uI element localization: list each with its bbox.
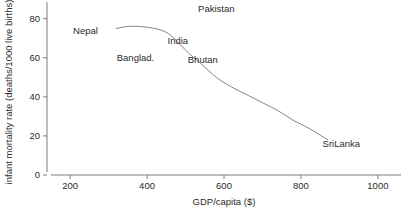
point-labels: NepalBanglad.PakistanIndiaBhutanSriLanka [73,3,361,149]
y-tick-label: 20 [29,130,40,141]
y-axis-title: infant mortality rate (deaths/1000 live … [3,0,14,184]
point-label-bhutan: Bhutan [188,54,218,65]
y-tick-label: 0 [35,169,40,180]
x-tick-label: 400 [139,180,155,191]
x-tick-label: 600 [216,180,232,191]
x-axis-title: GDP/capita ($) [193,196,256,207]
axis-titles: GDP/capita ($)infant mortality rate (dea… [3,0,255,207]
x-tick-label: 200 [62,180,78,191]
chart-figure: 0204060802004006008001000 NepalBanglad.P… [0,0,409,213]
point-label-india: India [168,35,189,46]
point-label-srilanka: SriLanka [323,138,361,149]
point-label-banglad: Banglad. [117,52,155,63]
y-tick-label: 60 [29,52,40,63]
point-label-nepal: Nepal [73,25,98,36]
x-tick-label: 1000 [367,180,388,191]
y-tick-label: 80 [29,13,40,24]
scatter-line-plot: 0204060802004006008001000 NepalBanglad.P… [0,0,409,213]
series-curve [116,26,328,140]
y-tick-label: 40 [29,91,40,102]
point-label-pakistan: Pakistan [198,3,234,14]
data-series [116,26,328,140]
x-tick-label: 800 [293,180,309,191]
